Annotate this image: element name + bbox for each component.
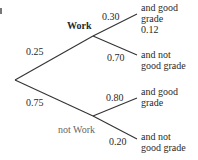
prob-work-to-good: 0.30: [102, 11, 120, 22]
outcome-not-work-not-good-line2: good grade: [141, 142, 186, 153]
outcome-work-not-good: and not good grade: [141, 49, 186, 71]
outcome-not-work-not-good: and not good grade: [141, 131, 186, 153]
prob-root-to-not-work: 0.75: [26, 97, 44, 108]
outcome-work-good-line1: and good: [141, 2, 178, 13]
prob-not-work-to-good: 0.80: [106, 92, 124, 103]
outcome-not-work-good-line2: grade: [141, 97, 178, 108]
outcome-work-good-result: 0.12: [141, 24, 178, 35]
outcome-work-not-good-line1: and not: [141, 49, 186, 60]
prob-root-to-work: 0.25: [26, 46, 44, 57]
outcome-not-work-not-good-line1: and not: [141, 131, 186, 142]
outcome-not-work-good-line1: and good: [141, 86, 178, 97]
prob-not-work-to-not-good: 0.20: [109, 136, 127, 147]
branch-root-to-work: [15, 36, 93, 80]
node-not-work-label: not Work: [58, 124, 95, 135]
outcome-work-not-good-line2: good grade: [141, 60, 186, 71]
outcome-not-work-good: and good grade: [141, 86, 178, 108]
node-work-label: Work: [67, 20, 91, 31]
outcome-work-good-line2: grade: [141, 13, 178, 24]
outcome-work-good: and good grade 0.12: [141, 2, 178, 35]
prob-work-to-not-good: 0.70: [107, 52, 125, 63]
